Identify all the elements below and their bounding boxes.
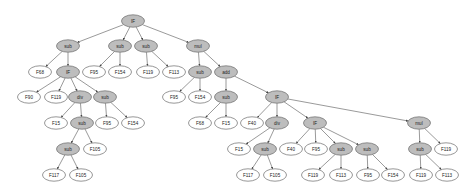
tree-edge bbox=[246, 128, 270, 144]
node-label: F95 bbox=[364, 173, 372, 178]
tree-edge bbox=[59, 78, 65, 91]
expression-tree-diagram: IFsubsubsubmulF68IFF95F154F119F113subadd… bbox=[0, 0, 474, 194]
node-label: F154 bbox=[195, 95, 206, 100]
feature-leaf-node: F40 bbox=[280, 143, 303, 155]
operator-node: sub bbox=[109, 40, 132, 52]
feature-leaf-node: F113 bbox=[436, 169, 459, 181]
tree-edge bbox=[111, 102, 127, 117]
tree-edge bbox=[319, 154, 335, 169]
tree-edge bbox=[71, 78, 77, 91]
node-label: F68 bbox=[36, 70, 44, 75]
operator-node: IF bbox=[122, 15, 145, 27]
tree-edge bbox=[71, 129, 79, 143]
node-label: F95 bbox=[312, 147, 320, 152]
node-label: sub bbox=[222, 95, 230, 100]
node-label: F154 bbox=[115, 70, 126, 75]
tree-edge bbox=[146, 52, 147, 66]
node-label: sub bbox=[78, 121, 86, 126]
feature-leaf-node: F113 bbox=[163, 66, 186, 78]
node-label: F105 bbox=[76, 173, 87, 178]
node-label: IF bbox=[313, 121, 317, 126]
feature-leaf-node: F154 bbox=[109, 66, 132, 78]
node-label: F119 bbox=[308, 173, 319, 178]
node-label: F95 bbox=[103, 121, 111, 126]
tree-edge bbox=[99, 51, 114, 66]
node-label: F113 bbox=[169, 70, 180, 75]
operator-node: IF bbox=[304, 117, 327, 129]
node-label: F68 bbox=[196, 121, 204, 126]
tree-edge bbox=[425, 128, 441, 143]
tree-edge bbox=[123, 27, 130, 40]
node-label: F15 bbox=[222, 121, 230, 126]
node-label: F15 bbox=[52, 121, 60, 126]
feature-leaf-node: F95 bbox=[357, 169, 380, 181]
tree-edge bbox=[105, 103, 106, 117]
feature-leaf-node: F40 bbox=[241, 117, 264, 129]
tree-edge bbox=[296, 129, 310, 144]
feature-leaf-node: F95 bbox=[305, 143, 328, 155]
tree-edge bbox=[205, 102, 220, 117]
node-label: sub bbox=[116, 44, 124, 49]
node-label: sub bbox=[196, 70, 204, 75]
node-label: F117 bbox=[243, 173, 254, 178]
node-label: F119 bbox=[441, 147, 452, 152]
tree-edge bbox=[288, 99, 408, 121]
tree-edge bbox=[46, 51, 62, 66]
node-label: F40 bbox=[248, 121, 256, 126]
feature-leaf-node: F15 bbox=[215, 117, 238, 129]
tree-edge bbox=[257, 103, 271, 118]
feature-leaf-node: F105 bbox=[264, 169, 287, 181]
operator-node: sub bbox=[409, 143, 432, 155]
node-label: F117 bbox=[49, 173, 60, 178]
tree-edge bbox=[426, 154, 442, 169]
feature-leaf-node: F119 bbox=[137, 66, 160, 78]
feature-leaf-node: F119 bbox=[410, 169, 433, 181]
feature-leaf-node: F90 bbox=[18, 91, 41, 103]
feature-leaf-node: F105 bbox=[84, 143, 107, 155]
operator-node: IF bbox=[266, 91, 289, 103]
operator-node: sub bbox=[57, 143, 80, 155]
feature-leaf-node: F119 bbox=[302, 169, 325, 181]
feature-leaf-node: F154 bbox=[382, 169, 405, 181]
node-label: sub bbox=[416, 147, 424, 152]
operator-node: sub bbox=[254, 143, 277, 155]
tree-edge bbox=[267, 155, 272, 169]
tree-edge bbox=[61, 103, 75, 118]
operator-node: mul bbox=[408, 117, 431, 129]
node-label: F105 bbox=[90, 147, 101, 152]
operator-node: sub bbox=[135, 40, 158, 52]
operator-node: div bbox=[266, 117, 289, 129]
tree-canvas: IFsubsubsubmulF68IFF95F154F119F113subadd… bbox=[0, 0, 474, 194]
operator-node: sub bbox=[356, 143, 379, 155]
node-label: sub bbox=[261, 147, 269, 152]
node-label: F154 bbox=[388, 173, 399, 178]
operator-node: div bbox=[69, 91, 92, 103]
tree-edge bbox=[235, 76, 269, 93]
node-label: F113 bbox=[336, 173, 347, 178]
operator-node: sub bbox=[215, 91, 238, 103]
feature-leaf-node: F154 bbox=[189, 91, 212, 103]
node-label: F15 bbox=[235, 147, 243, 152]
feature-leaf-node: F15 bbox=[45, 117, 68, 129]
node-label: mul bbox=[415, 121, 422, 126]
node-label: F119 bbox=[51, 95, 62, 100]
node-label: F40 bbox=[287, 147, 295, 152]
tree-edge bbox=[284, 102, 308, 118]
node-label: sub bbox=[363, 147, 371, 152]
feature-leaf-node: F105 bbox=[70, 169, 93, 181]
feature-leaf-node: F95 bbox=[83, 66, 106, 78]
tree-edge bbox=[75, 77, 98, 92]
operator-node: IF bbox=[57, 66, 80, 78]
node-label: F105 bbox=[270, 173, 281, 178]
feature-leaf-node: F68 bbox=[189, 117, 212, 129]
feature-leaf-node: F154 bbox=[122, 117, 145, 129]
tree-edge bbox=[198, 52, 199, 66]
operator-node: add bbox=[215, 66, 238, 78]
feature-leaf-node: F117 bbox=[237, 169, 260, 181]
node-label: F119 bbox=[416, 173, 427, 178]
operator-node: sub bbox=[330, 143, 353, 155]
feature-leaf-node: F113 bbox=[330, 169, 353, 181]
node-label: IF bbox=[275, 95, 279, 100]
node-label: F154 bbox=[128, 121, 139, 126]
node-label: F113 bbox=[442, 173, 453, 178]
